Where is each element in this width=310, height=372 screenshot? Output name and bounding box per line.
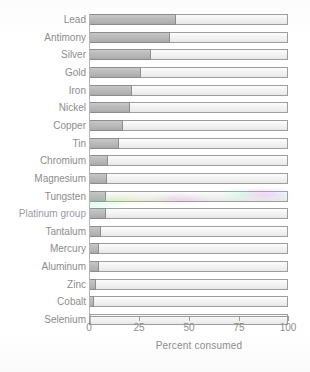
category-label-antimony: Antimony (0, 32, 86, 43)
x-tick-0 (89, 316, 90, 321)
bar-row (89, 14, 288, 25)
y-axis-spine (89, 14, 90, 317)
category-label-zinc: Zinc (0, 279, 86, 290)
bar-consumed (89, 49, 151, 60)
bar-consumed (89, 191, 106, 202)
category-label-silver: Silver (0, 49, 86, 60)
category-label-lead: Lead (0, 14, 86, 25)
bar-consumed (89, 102, 130, 113)
plot-area (89, 14, 288, 315)
category-axis-labels: Lead Antimony Silver Gold Iron Nickel Co… (0, 14, 86, 315)
bar-total (89, 226, 288, 237)
x-axis-title: Percent consumed (68, 340, 243, 351)
x-tick-50 (189, 316, 190, 321)
bar-row (89, 226, 288, 237)
bar-row (89, 155, 288, 166)
bar-total (89, 261, 288, 272)
category-label-copper: Copper (0, 120, 86, 131)
x-tick-25 (139, 316, 140, 321)
bar-consumed (89, 120, 123, 131)
category-label-magnesium: Magnesium (0, 173, 86, 184)
bar-consumed (89, 243, 99, 254)
bar-consumed (89, 226, 101, 237)
bar-total (89, 138, 288, 149)
bar-total (89, 191, 288, 202)
bar-consumed (89, 173, 107, 184)
bar-row (89, 32, 288, 43)
bar-total (89, 279, 288, 290)
x-tick-label-0: 0 (69, 322, 109, 334)
bar-consumed (89, 155, 108, 166)
bar-consumed (89, 138, 119, 149)
bar-row (89, 120, 288, 131)
category-label-nickel: Nickel (0, 102, 86, 113)
bar-consumed (89, 261, 99, 272)
bar-consumed (89, 14, 176, 25)
x-tick-label-25: 25 (119, 322, 159, 334)
category-label-tungsten: Tungsten (0, 191, 86, 202)
x-tick-label-100: 100 (268, 322, 308, 334)
category-label-gold: Gold (0, 67, 86, 78)
x-tick-label-50: 50 (169, 322, 209, 334)
category-label-tin: Tin (0, 138, 86, 149)
bar-row (89, 243, 288, 254)
bar-total (89, 208, 288, 219)
category-label-tantalum: Tantalum (0, 226, 86, 237)
bar-row (89, 102, 288, 113)
bar-row (89, 279, 288, 290)
bar-consumed (89, 279, 96, 290)
bar-total (89, 155, 288, 166)
category-label-cobalt: Cobalt (0, 296, 86, 307)
x-tick-100 (288, 316, 289, 321)
x-axis-title-wrap: Percent consumed (0, 340, 310, 351)
bar-chart: Lead Antimony Silver Gold Iron Nickel Co… (0, 0, 310, 372)
bar-row (89, 191, 288, 202)
bar-row (89, 208, 288, 219)
bar-consumed (89, 208, 106, 219)
category-label-mercury: Mercury (0, 243, 86, 254)
bar-total (89, 243, 288, 254)
bar-row (89, 296, 288, 307)
category-label-chromium: Chromium (0, 155, 86, 166)
x-tick-75 (239, 316, 240, 321)
bar-row (89, 261, 288, 272)
bar-row (89, 138, 288, 149)
bar-total (89, 296, 288, 307)
bar-row (89, 85, 288, 96)
bar-total (89, 173, 288, 184)
bar-row (89, 49, 288, 60)
category-label-iron: Iron (0, 85, 86, 96)
bar-consumed (89, 67, 141, 78)
category-label-aluminum: Aluminum (0, 261, 86, 272)
bar-consumed (89, 32, 170, 43)
x-tick-label-75: 75 (219, 322, 259, 334)
bar-consumed (89, 85, 132, 96)
category-label-platinum-group: Platinum group (0, 208, 86, 219)
bar-row (89, 67, 288, 78)
bar-row (89, 173, 288, 184)
